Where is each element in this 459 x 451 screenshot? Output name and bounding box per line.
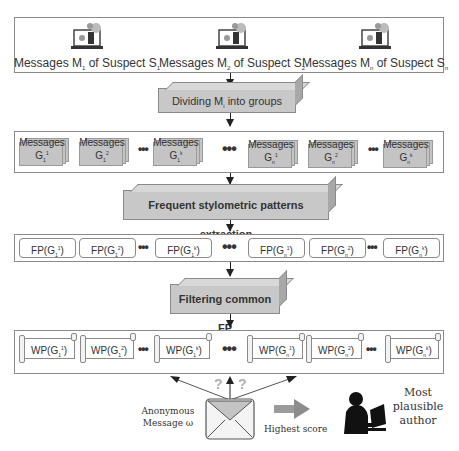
- envelope-icon: [205, 398, 255, 440]
- anonymous-message-label: AnonymousMessage ω: [138, 405, 198, 429]
- question-mark: ?: [214, 376, 223, 392]
- question-mark: ?: [238, 376, 247, 392]
- highest-score-label: Highest score: [264, 424, 327, 434]
- comparison-arrows: [0, 0, 459, 451]
- most-plausible-author-label: Mostplausibleauthor: [388, 386, 448, 428]
- hacker-author-icon: [340, 390, 388, 434]
- highest-score-arrow-icon: [272, 398, 312, 420]
